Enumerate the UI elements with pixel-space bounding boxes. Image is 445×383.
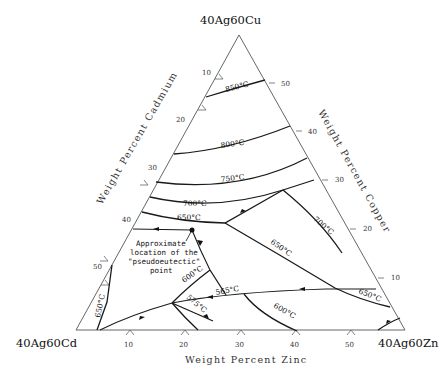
svg-text:565°C: 565°C bbox=[215, 284, 240, 297]
svg-text:30: 30 bbox=[235, 341, 244, 349]
svg-text:10: 10 bbox=[124, 341, 133, 349]
svg-text:point: point bbox=[150, 266, 173, 275]
svg-text:40: 40 bbox=[122, 216, 131, 224]
svg-text:575°C: 575°C bbox=[185, 293, 209, 315]
svg-text:20: 20 bbox=[176, 116, 185, 124]
bottom-axis-tick-labels: 10 20 30 40 50 bbox=[124, 341, 354, 349]
vertex-label-top: 40Ag60Cu bbox=[200, 13, 261, 27]
svg-text:50: 50 bbox=[281, 80, 290, 88]
svg-text:650°C: 650°C bbox=[93, 293, 107, 318]
svg-text:50: 50 bbox=[93, 263, 102, 271]
vertex-label-bottom-right: 40Ag60Zn bbox=[378, 336, 439, 350]
svg-text:20: 20 bbox=[363, 225, 372, 233]
svg-text:750°C: 750°C bbox=[220, 173, 245, 184]
svg-text:10: 10 bbox=[391, 274, 400, 282]
svg-text:800°C: 800°C bbox=[220, 138, 245, 150]
axis-title-cadmium: Weight Percent Cadmium bbox=[94, 69, 179, 206]
svg-text:10: 10 bbox=[202, 69, 211, 77]
svg-text:"pseudoeutectic": "pseudoeutectic" bbox=[128, 257, 200, 266]
svg-text:location of the: location of the bbox=[130, 248, 198, 257]
axis-title-zinc: Weight Percent Zinc bbox=[185, 354, 308, 365]
svg-text:30: 30 bbox=[335, 176, 344, 184]
ternary-diagram: 10 20 30 40 50 50 40 30 20 10 10 20 30 4… bbox=[0, 0, 445, 383]
svg-text:650°C: 650°C bbox=[177, 213, 201, 222]
svg-text:700°C: 700°C bbox=[312, 215, 336, 237]
svg-text:20: 20 bbox=[179, 341, 188, 349]
svg-text:50: 50 bbox=[345, 341, 354, 349]
svg-text:40: 40 bbox=[290, 341, 299, 349]
svg-text:40: 40 bbox=[308, 128, 317, 136]
axis-title-copper: Weight Percent Copper bbox=[316, 108, 393, 235]
svg-text:700°C: 700°C bbox=[183, 199, 207, 208]
svg-text:Approximate: Approximate bbox=[136, 239, 186, 248]
valley-arrows bbox=[139, 209, 391, 324]
bottom-axis-ticks bbox=[126, 330, 355, 335]
svg-text:30: 30 bbox=[148, 164, 157, 172]
svg-text:600°C: 600°C bbox=[272, 301, 297, 321]
svg-text:850°C: 850°C bbox=[224, 79, 250, 94]
svg-text:600°C: 600°C bbox=[180, 263, 205, 284]
vertex-label-bottom-left: 40Ag60Cd bbox=[16, 336, 78, 350]
